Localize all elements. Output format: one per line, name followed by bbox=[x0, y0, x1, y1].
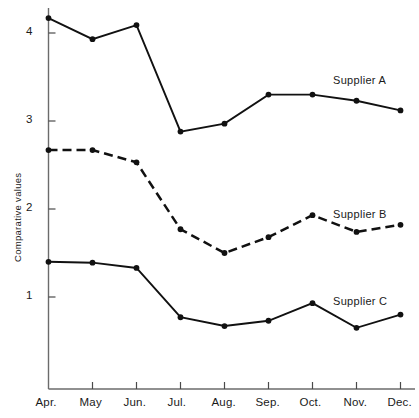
x-tick-label: May bbox=[80, 396, 102, 408]
data-point bbox=[178, 226, 184, 232]
data-point bbox=[134, 159, 140, 165]
data-point bbox=[354, 229, 360, 235]
x-tick-label: Aug. bbox=[212, 396, 236, 408]
data-point bbox=[398, 222, 404, 228]
data-point bbox=[222, 121, 228, 127]
x-tick-label: Jul. bbox=[168, 396, 187, 408]
y-tick-label: 3 bbox=[26, 113, 33, 125]
data-point bbox=[46, 259, 52, 265]
data-point bbox=[310, 212, 316, 218]
data-point bbox=[266, 318, 272, 324]
series-line-supplier-b bbox=[49, 150, 401, 253]
x-tick-label: Sep. bbox=[256, 396, 280, 408]
data-point bbox=[134, 265, 140, 271]
data-point bbox=[398, 312, 404, 318]
x-axis-ticks bbox=[93, 382, 401, 389]
y-axis-ticks bbox=[49, 33, 56, 297]
chart-axes bbox=[49, 8, 416, 389]
y-axis-title: Comparative values bbox=[12, 173, 23, 262]
series-label-supplier-a: Supplier A bbox=[333, 74, 386, 86]
data-point bbox=[266, 92, 272, 98]
chart-series-group bbox=[46, 15, 404, 331]
data-point bbox=[222, 250, 228, 256]
data-point bbox=[46, 147, 52, 153]
y-tick-label: 4 bbox=[26, 25, 33, 37]
data-point bbox=[354, 325, 360, 331]
data-point bbox=[90, 260, 96, 266]
data-point bbox=[354, 98, 360, 104]
series-label-supplier-c: Supplier C bbox=[333, 295, 387, 307]
data-point bbox=[310, 300, 316, 306]
line-chart: 1234 Apr.MayJun.Jul.Aug.Sep.Oct.Nov.Dec.… bbox=[0, 0, 419, 418]
y-tick-label: 2 bbox=[26, 201, 33, 213]
data-point bbox=[222, 323, 228, 329]
data-point bbox=[266, 234, 272, 240]
x-tick-label: Dec. bbox=[388, 396, 412, 408]
x-tick-label: Jun. bbox=[124, 396, 147, 408]
x-tick-label: Nov. bbox=[344, 396, 368, 408]
data-point bbox=[178, 129, 184, 135]
data-point bbox=[46, 15, 52, 21]
data-point bbox=[398, 108, 404, 114]
y-tick-label: 1 bbox=[26, 289, 33, 301]
data-point bbox=[90, 147, 96, 153]
data-point bbox=[90, 36, 96, 42]
series-label-supplier-b: Supplier B bbox=[333, 208, 387, 220]
x-tick-label: Apr. bbox=[36, 396, 57, 408]
data-point bbox=[134, 22, 140, 28]
x-tick-label: Oct. bbox=[300, 396, 322, 408]
data-point bbox=[178, 314, 184, 320]
data-point bbox=[310, 92, 316, 98]
